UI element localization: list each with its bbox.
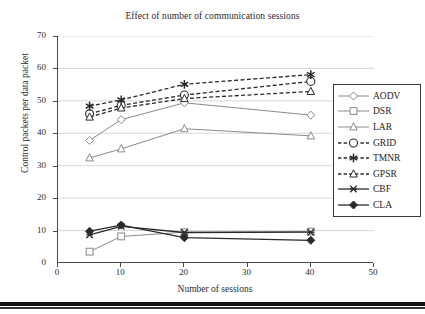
- legend-label: AODV: [370, 89, 400, 103]
- x-axis-tick-mark: [120, 263, 121, 267]
- legend-label: GRID: [370, 136, 396, 150]
- y-axis-label: Control packets per data packet: [20, 0, 30, 228]
- legend-label: LAR: [370, 120, 392, 134]
- y-axis-tick-mark: [53, 133, 57, 134]
- y-axis-tick-mark: [53, 166, 57, 167]
- x-axis-tick-mark: [57, 263, 58, 267]
- x-axis-tick-label: 0: [42, 267, 72, 277]
- x-axis-tick-label: 40: [295, 267, 325, 277]
- y-axis-tick-mark: [53, 68, 57, 69]
- legend-item-cla[interactable]: CLA: [334, 197, 420, 213]
- x-axis-label: Number of sessions: [57, 284, 373, 294]
- legend-label: CBF: [370, 182, 391, 196]
- legend-marker-asterisk: [337, 151, 370, 165]
- plot-area: [57, 36, 373, 263]
- legend-marker-triangle-open: [337, 120, 370, 134]
- legend-marker-x-star: [337, 182, 370, 196]
- y-axis-tick-mark: [53, 101, 57, 102]
- legend-marker-diamond-open: [337, 89, 370, 103]
- legend-marker-diamond-filled: [337, 198, 370, 212]
- legend-item-tmnr[interactable]: TMNR: [334, 150, 420, 166]
- legend-marker-circle-open: [337, 136, 370, 150]
- y-axis-tick-mark: [53, 36, 57, 37]
- legend-label: CLA: [370, 198, 392, 212]
- legend-item-lar[interactable]: LAR: [334, 119, 420, 135]
- x-axis-tick-label: 50: [358, 267, 388, 277]
- x-axis-tick-label: 10: [105, 267, 135, 277]
- footer-rule: [0, 302, 425, 306]
- legend-item-grid[interactable]: GRID: [334, 135, 420, 151]
- legend-marker-triangle-open: [337, 167, 370, 181]
- x-axis-tick-mark: [183, 263, 184, 267]
- y-axis-tick-label: 0: [12, 257, 46, 267]
- chart-legend: AODVDSRLARGRIDTMNRGPSRCBFCLA: [333, 84, 421, 217]
- x-axis-tick-mark: [373, 263, 374, 267]
- legend-item-gpsr[interactable]: GPSR: [334, 166, 420, 182]
- x-axis-tick-mark: [310, 263, 311, 267]
- data-series-layer: [58, 36, 374, 263]
- chart-figure: Effect of number of communication sessio…: [0, 0, 425, 314]
- y-axis-tick-mark: [53, 198, 57, 199]
- legend-label: GPSR: [370, 167, 397, 181]
- legend-item-dsr[interactable]: DSR: [334, 104, 420, 120]
- x-axis-tick-label: 30: [232, 267, 262, 277]
- legend-item-aodv[interactable]: AODV: [334, 88, 420, 104]
- series-lar: [90, 129, 311, 158]
- footer-rule-secondary: [0, 307, 425, 309]
- legend-item-cbf[interactable]: CBF: [334, 182, 420, 198]
- x-axis-tick-label: 20: [168, 267, 198, 277]
- legend-label: DSR: [370, 104, 391, 118]
- chart-title: Effect of number of communication sessio…: [0, 11, 425, 21]
- legend-label: TMNR: [370, 151, 400, 165]
- legend-marker-square-open: [337, 104, 370, 118]
- x-axis-tick-mark: [247, 263, 248, 267]
- y-axis-tick-mark: [53, 231, 57, 232]
